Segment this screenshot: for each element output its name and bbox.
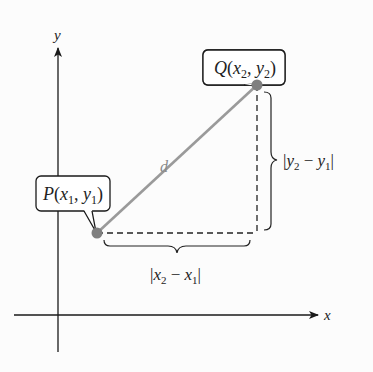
vertical-brace-label: |y2 − y1| <box>283 151 334 172</box>
segment-label-d: d <box>160 158 169 175</box>
distance-diagram: y x d |x2 − x1| |y2 − y1| Q(x2, y2) <box>0 0 373 372</box>
vertical-brace <box>264 92 277 230</box>
y-axis-label: y <box>52 27 61 43</box>
distance-segment <box>97 85 257 233</box>
horizontal-brace-label: |x2 − x1| <box>150 265 201 286</box>
x-axis-label: x <box>323 307 331 323</box>
point-p-dot <box>92 228 103 239</box>
horizontal-brace <box>104 240 250 253</box>
point-q-dot <box>252 80 263 91</box>
